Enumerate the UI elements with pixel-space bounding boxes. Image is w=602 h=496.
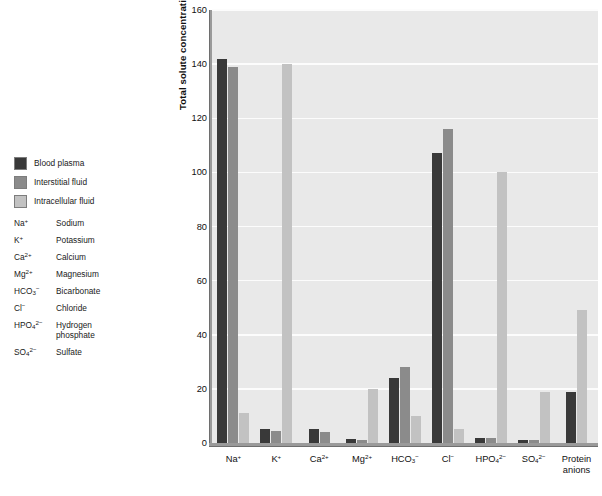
x-axis-category-label-line2: anions	[562, 465, 591, 476]
symbol-superscript: 2−	[499, 453, 506, 460]
legend-item-label: Intracellular fluid	[34, 196, 94, 206]
abbreviation-row: K+Potassium	[14, 235, 174, 245]
bar	[309, 429, 319, 443]
legend-swatch-icon	[14, 176, 27, 189]
bar-group	[212, 10, 255, 443]
bar	[454, 429, 464, 443]
x-axis-category-label: HPO42−	[475, 454, 506, 465]
legend-item: Interstitial fluid	[14, 174, 174, 190]
bar	[540, 392, 550, 443]
symbol-superscript: 2+	[25, 251, 32, 258]
bar	[518, 440, 528, 443]
bar	[443, 129, 453, 443]
bar-group	[384, 10, 427, 443]
abbreviation-name: Potassium	[56, 235, 95, 245]
x-axis-category-label: Na+	[226, 454, 242, 465]
bar	[282, 64, 292, 443]
legend-swatch-icon	[14, 157, 27, 170]
y-axis-title: Total solute concentration (mEq/L)	[177, 0, 188, 110]
y-axis-tick-label: 60	[197, 276, 207, 286]
x-axis-category-label: HCO3−	[391, 454, 419, 465]
abbreviation-row: Na+Sodium	[14, 218, 174, 228]
y-axis-tick-label: 0	[202, 438, 207, 448]
bar	[411, 416, 421, 443]
bar	[497, 172, 507, 443]
bar	[260, 429, 270, 443]
abbreviation-name: Magnesium	[56, 269, 99, 279]
bar-group	[426, 10, 469, 443]
bar-group	[555, 10, 598, 443]
x-axis-line	[209, 443, 598, 447]
series-legend: Blood plasmaInterstitial fluidIntracellu…	[14, 155, 174, 209]
legend-swatch-icon	[14, 195, 27, 208]
symbol-superscript: +	[25, 217, 29, 224]
bar-group	[255, 10, 298, 443]
abbreviation-symbol: HPO42−	[14, 320, 56, 330]
abbreviation-symbol: Mg2+	[14, 269, 56, 279]
symbol-superscript: 2+	[365, 453, 372, 460]
abbreviation-row: Mg2+Magnesium	[14, 269, 174, 279]
legend-item: Intracellular fluid	[14, 193, 174, 209]
abbreviation-symbol: Ca2+	[14, 252, 56, 262]
y-axis-tick-label: 100	[191, 167, 207, 177]
bar	[346, 439, 356, 443]
symbol-superscript: 2−	[29, 346, 36, 353]
bar	[566, 392, 576, 443]
bar	[432, 153, 442, 443]
symbol-superscript: +	[278, 453, 282, 460]
x-axis-category-label: K+	[271, 454, 281, 465]
legend-item: Blood plasma	[14, 155, 174, 171]
abbreviation-symbol: Na+	[14, 218, 56, 228]
abbreviation-symbol: SO42−	[14, 347, 56, 357]
symbol-superscript: +	[238, 453, 242, 460]
bar	[368, 389, 378, 443]
abbreviation-row: HCO3−Bicarbonate	[14, 286, 174, 296]
symbol-superscript: 2+	[26, 268, 33, 275]
symbol-superscript: 2+	[322, 453, 329, 460]
bar	[529, 440, 539, 443]
abbreviation-row: Cl−Chloride	[14, 303, 174, 313]
symbol-superscript: +	[20, 234, 24, 241]
abbreviation-symbol: Cl−	[14, 303, 56, 313]
y-axis-tick-label: 140	[191, 59, 207, 69]
abbreviation-name: Sodium	[56, 218, 84, 228]
legend-item-label: Blood plasma	[34, 158, 84, 168]
bar-group	[512, 10, 555, 443]
abbreviation-row: Ca2+Calcium	[14, 252, 174, 262]
bar	[486, 438, 496, 443]
y-axis-tick-label: 80	[197, 222, 207, 232]
symbol-superscript: 2−	[35, 319, 42, 326]
y-axis-tick-label: 120	[191, 113, 207, 123]
abbreviation-row: SO42−Sulfate	[14, 347, 174, 357]
bar	[389, 378, 399, 443]
plot-region: 020406080100120140160 Na+K+Ca2+Mg2+HCO3−…	[212, 10, 598, 443]
bar	[475, 438, 485, 443]
x-axis-category-label: SO42−	[522, 454, 546, 465]
x-axis-category-label: Ca2+	[310, 454, 329, 465]
plot-wrapper: 020406080100120140160 Na+K+Ca2+Mg2+HCO3−…	[212, 10, 598, 443]
abbreviation-name: Chloride	[56, 303, 87, 313]
abbreviation-row: HPO42−Hydrogenphosphate	[14, 320, 174, 340]
y-axis-tick-label: 160	[191, 5, 207, 15]
bar	[577, 310, 587, 443]
abbreviation-name: Sulfate	[56, 347, 82, 357]
y-axis-tick-label: 40	[197, 330, 207, 340]
bar-group	[341, 10, 384, 443]
abbreviation-name: Bicarbonate	[56, 286, 100, 296]
legend-item-label: Interstitial fluid	[34, 177, 87, 187]
x-axis-category-label: Cl−	[442, 454, 454, 465]
bar	[357, 440, 367, 443]
x-axis-category-label: Proteinanions	[562, 454, 591, 476]
bar	[228, 67, 238, 443]
x-axis-category-label: Mg2+	[352, 454, 372, 465]
bar	[271, 431, 281, 443]
abbreviation-name-line2: phosphate	[56, 330, 95, 340]
bar	[320, 432, 330, 443]
bar	[400, 367, 410, 443]
bar	[239, 413, 249, 443]
abbreviation-symbol: HCO3−	[14, 286, 56, 296]
bar-group	[469, 10, 512, 443]
abbreviation-name: Hydrogenphosphate	[56, 320, 95, 340]
abbreviation-symbol: K+	[14, 235, 56, 245]
y-axis-tick-label: 20	[197, 384, 207, 394]
